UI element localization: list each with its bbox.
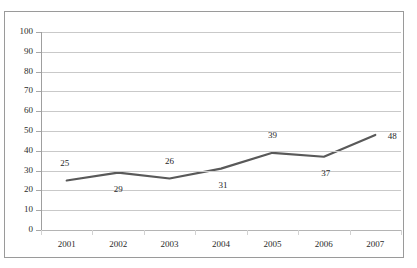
gridline: [41, 210, 401, 211]
x-axis-label: 2002: [95, 239, 141, 249]
x-axis-label: 2007: [352, 239, 398, 249]
x-axis-label: 2005: [249, 239, 295, 249]
data-point-label: 37: [316, 169, 336, 178]
x-axis-tick: [41, 230, 42, 235]
x-axis-tick: [195, 230, 196, 235]
x-axis-tick: [350, 230, 351, 235]
data-point-label: 29: [108, 185, 128, 194]
y-axis-label: 70: [5, 86, 33, 95]
y-axis-label: 60: [5, 106, 33, 115]
cropped-title-remnant: [18, 0, 218, 8]
chart-frame: 0102030405060708090100200120022003200420…: [4, 11, 404, 258]
gridline: [41, 52, 401, 53]
y-axis-label: 80: [5, 67, 33, 76]
data-point-label: 31: [213, 181, 233, 190]
x-axis-tick: [144, 230, 145, 235]
gridline: [41, 230, 401, 231]
x-axis-label: 2003: [147, 239, 193, 249]
y-axis-label: 0: [5, 225, 33, 234]
data-point-label: 39: [262, 131, 282, 140]
data-point-label: 25: [55, 159, 75, 168]
y-axis-label: 50: [5, 126, 33, 135]
y-axis-line: [41, 32, 42, 230]
gridline: [41, 131, 401, 132]
plot-area: 0102030405060708090100200120022003200420…: [5, 12, 403, 257]
gridline: [41, 190, 401, 191]
gridline: [41, 32, 401, 33]
x-axis-tick: [92, 230, 93, 235]
gridline: [41, 91, 401, 92]
gridline: [41, 72, 401, 73]
y-axis-label: 30: [5, 166, 33, 175]
line-series: [5, 12, 405, 259]
data-point-label: 48: [382, 132, 402, 141]
x-axis-label: 2001: [44, 239, 90, 249]
x-axis-tick: [401, 230, 402, 235]
gridline: [41, 151, 401, 152]
gridline: [41, 111, 401, 112]
x-axis-label: 2004: [198, 239, 244, 249]
data-point-label: 26: [160, 157, 180, 166]
x-axis-tick: [247, 230, 248, 235]
y-axis-label: 100: [5, 27, 33, 36]
x-axis-tick: [298, 230, 299, 235]
x-axis-label: 2006: [301, 239, 347, 249]
gridline: [41, 171, 401, 172]
y-axis-label: 90: [5, 47, 33, 56]
y-axis-label: 10: [5, 205, 33, 214]
y-axis-label: 20: [5, 185, 33, 194]
y-axis-label: 40: [5, 146, 33, 155]
